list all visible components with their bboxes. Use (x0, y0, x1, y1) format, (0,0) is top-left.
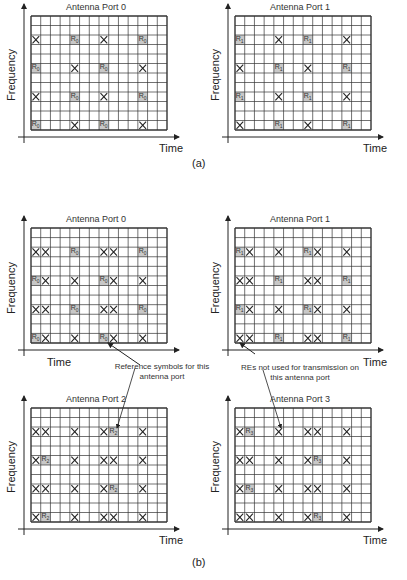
unused-re-x-icon (305, 122, 312, 129)
unused-re-x-icon (275, 93, 282, 100)
reference-symbol-label: R1 (275, 275, 283, 284)
unused-re-x-icon (314, 248, 321, 255)
unused-re-x-icon (237, 335, 244, 342)
unused-re-x-icon (101, 93, 108, 100)
panel-b1 (222, 216, 383, 356)
reference-symbol-label: R2 (110, 427, 118, 436)
reference-symbol-label: R0 (139, 35, 147, 44)
unused-re-x-icon (246, 457, 253, 464)
resource-grid-diagram (0, 0, 407, 580)
unused-re-x-icon (110, 335, 117, 342)
panel-b3 (222, 396, 383, 535)
panel-b0 (18, 216, 179, 356)
frequency-axis-label: Frequency (209, 49, 221, 101)
unused-re-x-icon (33, 93, 40, 100)
unused-re-x-icon (305, 428, 312, 435)
unused-re-x-icon (71, 65, 78, 72)
unused-re-x-icon (275, 514, 282, 521)
reference-symbol-label: R0 (71, 247, 79, 256)
reference-symbol-label: R3 (314, 512, 322, 521)
frequency-axis-label: Frequency (5, 49, 17, 101)
reference-symbol-label: R1 (304, 92, 312, 101)
unused-re-x-icon (42, 277, 49, 284)
reference-symbol-label: R0 (139, 247, 147, 256)
unused-re-x-icon (246, 306, 253, 313)
reference-symbol-label: R1 (275, 333, 283, 342)
unused-re-x-icon (71, 335, 78, 342)
unused-re-x-icon (139, 514, 146, 521)
reference-symbol-label: R2 (42, 455, 50, 464)
unused-re-x-icon (101, 36, 108, 43)
reference-symbol-label: R0 (32, 63, 40, 72)
unused-re-x-icon (42, 335, 49, 342)
annotation-arrow-res-unused (240, 343, 255, 354)
unused-re-x-icon (237, 514, 244, 521)
unused-re-x-icon (33, 457, 40, 464)
reference-symbol-label: R0 (71, 35, 79, 44)
unused-re-x-icon (305, 457, 312, 464)
reference-symbol-label: R2 (110, 484, 118, 493)
unused-re-x-icon (314, 306, 321, 313)
reference-symbol-label: R1 (304, 35, 312, 44)
reference-symbol-label: R0 (100, 63, 108, 72)
reference-symbol-label: R1 (343, 63, 351, 72)
unused-re-x-icon (110, 248, 117, 255)
reference-symbol-label: R3 (246, 484, 254, 493)
reference-symbol-label: R3 (314, 455, 322, 464)
unused-re-x-icon (275, 306, 282, 313)
unused-re-x-icon (71, 457, 78, 464)
unused-re-x-icon (237, 65, 244, 72)
reference-symbol-label: R1 (304, 304, 312, 313)
unused-re-x-icon (343, 485, 350, 492)
unused-re-x-icon (343, 457, 350, 464)
unused-re-x-icon (139, 277, 146, 284)
frequency-axis-label: Frequency (5, 262, 17, 314)
unused-re-x-icon (305, 514, 312, 521)
reference-symbol-label: R1 (343, 333, 351, 342)
unused-re-x-icon (314, 485, 321, 492)
unused-re-x-icon (110, 514, 117, 521)
unused-re-x-icon (343, 428, 350, 435)
unused-re-x-icon (33, 306, 40, 313)
panel-a0 (18, 4, 179, 143)
unused-re-x-icon (110, 306, 117, 313)
caption-b: (b) (192, 556, 205, 568)
unused-re-x-icon (42, 485, 49, 492)
time-axis-label: Time (363, 356, 387, 368)
reference-symbol-label: R1 (275, 63, 283, 72)
unused-re-x-icon (33, 514, 40, 521)
reference-symbol-label: R0 (100, 275, 108, 284)
unused-re-x-icon (246, 335, 253, 342)
reference-symbol-label: R0 (32, 275, 40, 284)
unused-re-x-icon (343, 248, 350, 255)
unused-re-x-icon (71, 514, 78, 521)
reference-symbol-label: R1 (236, 304, 244, 313)
reference-symbol-label: R2 (42, 512, 50, 521)
reference-symbol-label: R1 (236, 35, 244, 44)
reference-symbol-label: R0 (71, 304, 79, 313)
reference-symbol-label: R1 (236, 247, 244, 256)
reference-symbol-label: R0 (32, 333, 40, 342)
unused-re-x-icon (275, 248, 282, 255)
unused-re-x-icon (275, 485, 282, 492)
reference-symbol-label: R3 (246, 427, 254, 436)
unused-re-x-icon (110, 277, 117, 284)
unused-re-x-icon (237, 122, 244, 129)
panel-title: Antenna Port 0 (66, 2, 126, 12)
reference-symbol-label: R1 (304, 247, 312, 256)
annotation-reference-symbols: Reference symbols for this antenna port (102, 362, 222, 382)
unused-re-x-icon (71, 277, 78, 284)
reference-symbol-label: R0 (100, 333, 108, 342)
unused-re-x-icon (139, 485, 146, 492)
frequency-axis-label: Frequency (5, 441, 17, 493)
time-axis-label: Time (159, 142, 183, 154)
unused-re-x-icon (246, 277, 253, 284)
unused-re-x-icon (343, 36, 350, 43)
reference-symbol-label: R0 (71, 92, 79, 101)
time-axis-label: Time (47, 356, 71, 368)
unused-re-x-icon (275, 428, 282, 435)
unused-re-x-icon (305, 335, 312, 342)
unused-re-x-icon (246, 248, 253, 255)
unused-re-x-icon (42, 306, 49, 313)
unused-re-x-icon (101, 248, 108, 255)
